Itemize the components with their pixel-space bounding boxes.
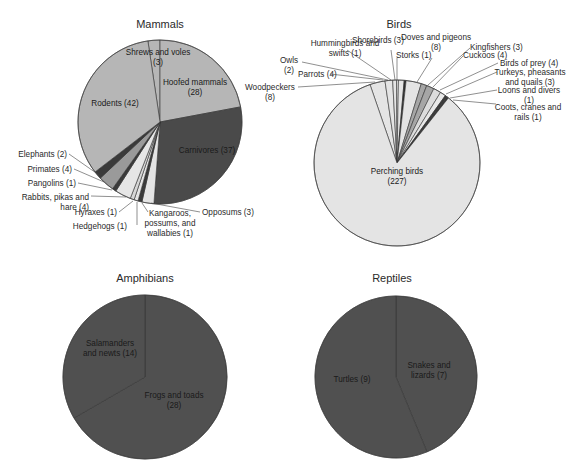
callout-label-woodpeckers: Woodpeckers(8) (245, 83, 295, 102)
mammals-title: Mammals (136, 18, 184, 30)
reptiles-title: Reptiles (372, 272, 412, 284)
leader-line (433, 56, 463, 87)
leader-line (91, 196, 126, 197)
callout-label-storks-1: Storks (1) (396, 51, 432, 60)
birds-pie-chart: Birds Perching birds(227)Hummingbirds an… (245, 18, 566, 246)
leader-line (119, 201, 133, 212)
callout-label-kangaroos: Kangaroos,possums, andwallabies (1) (145, 209, 196, 238)
callout-label-pangolins-1: Pangolins (1) (28, 179, 77, 188)
birds-title: Birds (386, 18, 412, 30)
callout-label-coots-cranes-and: Coots, cranes andrails (1) (495, 103, 562, 122)
pie-charts-svg: Mammals Shrews and voles(3)Hoofed mammal… (0, 0, 578, 471)
callout-label-parrots-4: Parrots (4) (298, 70, 337, 79)
slice-carnivores (154, 107, 242, 204)
slice-label-salamanders: Salamandersand newts (14) (83, 339, 137, 358)
slice-label-turtles-9: Turtles (9) (334, 375, 371, 384)
leader-line (450, 90, 497, 98)
callout-label-primates-4: Primates (4) (27, 165, 72, 174)
amphibians-pie-chart: Amphibians Salamandersand newts (14)Frog… (63, 272, 227, 459)
callout-label-hedgehogs-1: Hedgehogs (1) (73, 222, 127, 231)
leader-line (417, 58, 432, 82)
pie-slices (314, 80, 480, 246)
slice-label-carnivores-37: Carnivores (37) (179, 146, 236, 155)
mammals-pie-chart: Mammals Shrews and voles(3)Hoofed mammal… (18, 18, 254, 238)
callout-label-shorebirds-3: Shorebirds (3) (352, 36, 404, 45)
leader-line (453, 100, 496, 104)
callout-label-elephants-2: Elephants (2) (18, 150, 67, 159)
leader-line (142, 203, 148, 212)
leader-line (391, 50, 395, 80)
callout-label-birds-of-prey-4: Birds of prey (4) (500, 59, 559, 68)
callout-label-hyraxes-1: Hyraxes (1) (75, 208, 118, 217)
pie-slices (63, 295, 227, 459)
callout-label-opposums-3: Opposums (3) (202, 208, 254, 217)
leader-line (298, 82, 375, 87)
amphibians-title: Amphibians (116, 272, 174, 284)
callout-label-turkeys-pheasants: Turkeys, pheasantsand quails (3) (494, 68, 565, 87)
callout-label-owls: Owls(2) (280, 56, 298, 75)
callout-label-doves-and-pigeons: Doves and pigeons(8) (401, 33, 471, 52)
reptiles-pie-chart: Reptiles Snakes andlizards (7)Turtles (9… (315, 272, 477, 458)
chart-figure: Mammals Shrews and voles(3)Hoofed mammal… (0, 0, 578, 471)
slice-label-snakes-and: Snakes andlizards (7) (407, 361, 451, 380)
slice-label-rodents-42: Rodents (42) (91, 99, 139, 108)
